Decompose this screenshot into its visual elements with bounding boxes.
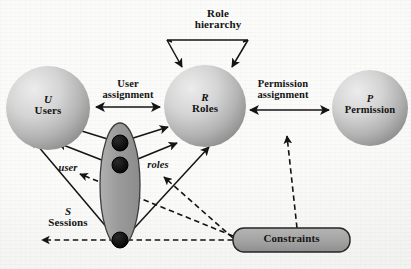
session-dot-3 <box>112 232 128 248</box>
session-dot-1 <box>112 135 128 151</box>
node-permission-label: Permission <box>330 105 410 116</box>
node-constraints-label: Constraints <box>233 233 350 244</box>
label-user-assignment: User assignment <box>88 79 168 100</box>
diagram-vector-layer <box>0 0 411 269</box>
label-user-assignment-line2: assignment <box>88 90 168 101</box>
node-users-label: Users <box>8 105 88 116</box>
edge-role-hierarchy <box>167 40 248 67</box>
node-sessions-text: S Sessions <box>28 206 108 228</box>
session-dot-2 <box>112 157 128 173</box>
node-permission-text: P Permission <box>330 94 410 115</box>
label-permission-assignment-line2: assignment <box>240 90 326 101</box>
node-roles-text: R Roles <box>166 92 244 114</box>
label-role-hierarchy: Role hierarchy <box>178 8 258 30</box>
label-roles-mapping: roles <box>128 160 188 171</box>
node-sessions-label: Sessions <box>28 217 108 228</box>
label-permission-assignment: Permission assignment <box>240 79 326 100</box>
node-roles-label: Roles <box>166 103 244 114</box>
node-sessions[interactable] <box>100 123 140 248</box>
label-role-hierarchy-line2: hierarchy <box>178 19 258 30</box>
node-users-text: U Users <box>8 94 88 116</box>
rbac-diagram-canvas: Role hierarchy User assignment Permissio… <box>0 0 411 269</box>
label-user-mapping: user <box>38 163 98 174</box>
